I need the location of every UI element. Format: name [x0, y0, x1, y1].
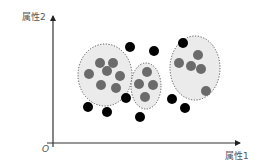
outlier-point [121, 93, 131, 103]
outlier-point [125, 42, 135, 52]
x-axis-label: 属性1 [225, 151, 249, 161]
cluster-point [134, 79, 144, 89]
cluster-3 [170, 36, 220, 100]
cluster-point [95, 58, 105, 68]
cluster-point [84, 69, 94, 79]
outlier-point [180, 103, 190, 113]
outlier-point [135, 112, 145, 122]
cluster-point [111, 83, 121, 93]
outlier-point [102, 107, 112, 117]
y-axis-label: 属性2 [22, 12, 46, 22]
outlier-point [167, 94, 177, 104]
cluster-point [196, 64, 206, 74]
clusters-group [78, 36, 220, 109]
cluster-point [140, 92, 150, 102]
cluster-point [201, 86, 211, 96]
cluster-point [115, 71, 125, 81]
cluster-point [174, 58, 184, 68]
outlier-point [178, 38, 188, 48]
outlier-point [83, 102, 93, 112]
cluster-point [193, 50, 203, 60]
cluster-point [96, 80, 106, 90]
outlier-point [149, 46, 159, 56]
cluster-point [102, 66, 112, 76]
cluster-diagram: 属性2 属性1 O [0, 0, 265, 168]
cluster-point [186, 61, 196, 71]
origin-label: O [42, 144, 49, 154]
cluster-point [108, 58, 118, 68]
cluster-point [142, 67, 152, 77]
plot-area [0, 0, 265, 168]
cluster-point [148, 80, 158, 90]
cluster-2 [131, 63, 161, 109]
